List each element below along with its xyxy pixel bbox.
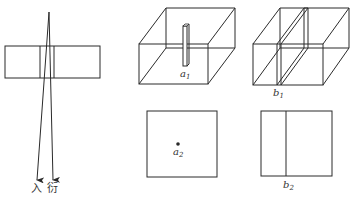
square-b2 (261, 111, 332, 176)
diffracted-ray (49, 12, 53, 180)
cube-a1: a1 (139, 8, 235, 84)
diffraction-diagram: 入 衍 a1 (0, 0, 356, 198)
cube-a1-front-face (139, 44, 208, 84)
cube-b1: b1 (253, 8, 349, 100)
plate-rect (5, 46, 100, 78)
projection-a2: a2 (147, 111, 217, 177)
label-b2: b2 (283, 179, 294, 192)
plate-figure: 入 衍 (5, 12, 100, 195)
label-b1: b1 (273, 87, 284, 100)
square-a2 (147, 111, 217, 177)
rod-inclusion (183, 24, 189, 66)
incident-label: 入 (31, 182, 42, 195)
label-a2: a2 (173, 146, 184, 159)
incident-ray (37, 12, 49, 180)
slab-inclusion (277, 8, 308, 85)
cube-b1-front-face (253, 44, 323, 85)
diffracted-label: 衍 (47, 181, 58, 195)
label-a1: a1 (180, 68, 190, 81)
projection-b2: b2 (261, 111, 332, 192)
